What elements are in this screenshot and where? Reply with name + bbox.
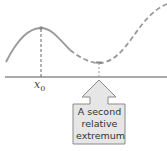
- max-point: [39, 26, 43, 30]
- callout-line-3: extremum: [76, 130, 123, 142]
- callout-line-2: relative: [76, 118, 123, 130]
- dashed-curve: [70, 4, 167, 63]
- callout-line-1: A second: [76, 106, 123, 118]
- callout-text: A second relative extremum: [76, 106, 123, 142]
- x0-label: x0: [34, 78, 45, 93]
- solid-curve: [6, 28, 70, 62]
- min-point: [96, 62, 102, 64]
